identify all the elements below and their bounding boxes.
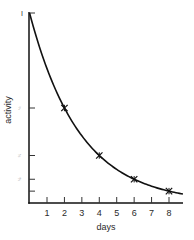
x-tick-label: 3	[79, 208, 84, 218]
decay-curve	[30, 13, 183, 194]
star-marker-icon	[96, 152, 102, 158]
data-markers	[61, 105, 172, 195]
star-marker-icon	[61, 105, 67, 111]
x-axis-label: days	[96, 222, 116, 232]
y-tick-label: I	[21, 10, 23, 17]
x-tick-label: 1	[44, 208, 49, 218]
x-tick-label: 5	[114, 208, 119, 218]
y-axis-label: activity	[3, 96, 13, 124]
x-tick-label: 8	[166, 208, 171, 218]
x-tick-label: 7	[149, 208, 154, 218]
y-tick-label: ⅛	[17, 177, 22, 181]
x-axis: 12345678	[28, 197, 183, 218]
y-tick-label: ¼	[17, 153, 22, 157]
x-tick-label: 2	[62, 208, 67, 218]
y-tick-label: ½	[17, 106, 22, 110]
x-tick-label: 6	[132, 208, 137, 218]
decay-chart: I½¼⅛ 12345678 days activity	[0, 0, 194, 240]
y-axis: I½¼⅛	[17, 10, 35, 204]
star-marker-icon	[131, 176, 137, 182]
x-tick-label: 4	[97, 208, 102, 218]
